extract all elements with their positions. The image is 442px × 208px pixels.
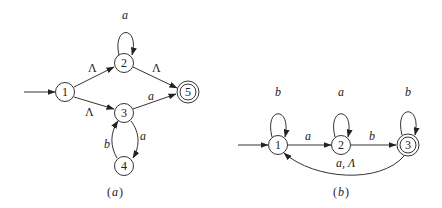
state-4: 4 (115, 157, 134, 176)
edge-2-2 (118, 33, 134, 56)
edge-1-3 (74, 97, 114, 109)
caption-a-open: ( (107, 185, 111, 199)
caption-b-open: ( (333, 185, 337, 199)
edge-1-1 (271, 114, 287, 137)
state-label: 2 (121, 56, 127, 70)
state-3-accepting: 3 (397, 134, 419, 156)
state-3: 3 (115, 104, 134, 123)
caption-a-close: ) (119, 185, 123, 199)
diagram-b: b a a b b a, Λ 1 2 3 ( b (238, 85, 419, 199)
state-label: 1 (62, 85, 68, 99)
edge-4-3 (112, 121, 118, 158)
state-1: 1 (269, 136, 288, 155)
state-5-accepting: 5 (177, 81, 199, 103)
caption-b-close: ) (345, 185, 349, 199)
edge-label-2-3: b (369, 129, 375, 143)
edge-label-1-2: a (305, 129, 311, 143)
edge-label-4-3: b (104, 137, 110, 151)
edge-label-1-3: Λ (85, 105, 94, 119)
edge-3-4 (131, 121, 138, 158)
state-label: 3 (121, 106, 127, 120)
state-label: 4 (121, 159, 127, 173)
state-2: 2 (115, 54, 134, 73)
diagram-a: Λ Λ a Λ a a b 1 2 3 (24, 8, 199, 199)
state-label: 3 (405, 138, 411, 152)
state-label: 2 (338, 138, 344, 152)
edge-label-3-3: b (405, 85, 411, 99)
state-1: 1 (56, 83, 75, 102)
edge-label-1-2: Λ (88, 61, 97, 75)
automata-figure: Λ Λ a Λ a a b 1 2 3 (0, 0, 442, 208)
edge-label-2-2: a (122, 8, 128, 22)
edge-3-5 (133, 94, 176, 109)
edge-label-2-2: a (338, 85, 344, 99)
edge-3-3 (401, 112, 417, 135)
caption-b: b (338, 185, 344, 199)
edge-2-2 (334, 114, 350, 137)
state-label: 5 (185, 85, 191, 99)
edge-label-2-5: Λ (152, 61, 161, 75)
caption-a: a (112, 185, 118, 199)
edge-label-3-1: a, Λ (336, 156, 356, 170)
edge-label-3-5: a (148, 89, 154, 103)
edge-label-1-1: b (275, 85, 281, 99)
state-label: 1 (275, 138, 281, 152)
state-2: 2 (332, 136, 351, 155)
edge-label-3-4: a (140, 129, 146, 143)
